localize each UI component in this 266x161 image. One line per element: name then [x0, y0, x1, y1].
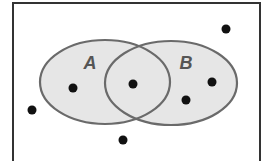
element-point: [69, 84, 78, 93]
set-a-label: A: [83, 53, 97, 73]
venn-diagram: A B: [0, 0, 266, 161]
element-point: [208, 78, 217, 87]
set-b-label: B: [180, 53, 193, 73]
element-point: [129, 80, 138, 89]
element-point: [182, 96, 191, 105]
element-point: [222, 25, 231, 34]
element-point: [28, 106, 37, 115]
element-point: [119, 136, 128, 145]
set-fills: [40, 40, 237, 125]
